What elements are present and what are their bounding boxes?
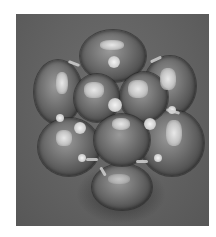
prong <box>78 154 86 162</box>
highlight <box>160 68 176 90</box>
highlight <box>108 174 130 184</box>
prong <box>144 118 156 130</box>
highlight <box>128 80 148 98</box>
gemstone-photo <box>16 14 209 226</box>
highlight <box>84 82 104 98</box>
highlight <box>166 120 182 146</box>
prong <box>154 154 162 162</box>
highlight <box>56 72 68 94</box>
prong <box>108 98 122 112</box>
prong <box>74 122 86 134</box>
setting-bar <box>136 160 148 163</box>
gem-lower-left <box>38 118 100 176</box>
prong <box>56 114 64 122</box>
highlight <box>100 40 124 50</box>
highlight <box>56 130 72 146</box>
prong <box>108 56 120 68</box>
highlight <box>112 118 130 130</box>
setting-bar <box>86 158 98 161</box>
